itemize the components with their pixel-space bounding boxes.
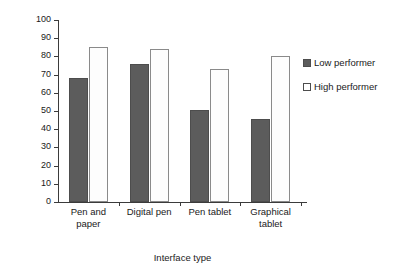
y-tick-70: 70	[54, 75, 58, 76]
y-tick-30: 30	[54, 147, 58, 148]
y-axis-line	[58, 20, 59, 202]
y-tick-label-40: 40	[29, 123, 51, 134]
bar-high-graphical-tablet	[271, 56, 290, 202]
x-category-label-line: Graphical	[240, 206, 301, 218]
bar-high-pen-tablet	[210, 69, 229, 202]
x-category-label-line: Pen tablet	[180, 206, 241, 218]
legend: Low performer High performer	[303, 57, 411, 105]
x-axis-line	[58, 202, 307, 203]
bar-low-graphical-tablet	[251, 119, 270, 202]
bar-chart: Percent correct inferences 0102030405060…	[0, 0, 412, 278]
bar-low-pen-and-paper	[69, 78, 88, 202]
bar-high-digital-pen	[150, 49, 169, 202]
legend-label-low: Low performer	[314, 57, 375, 68]
y-tick-label-30: 30	[29, 141, 51, 152]
y-tick-20: 20	[54, 166, 58, 167]
x-group-tick-4	[301, 202, 302, 206]
y-tick-label-50: 50	[29, 105, 51, 116]
x-category-label-graphical-tablet: Graphicaltablet	[240, 206, 301, 229]
x-category-label-line: paper	[58, 218, 119, 230]
y-tick-label-80: 80	[29, 50, 51, 61]
bar-low-pen-tablet	[190, 110, 209, 202]
y-tick-60: 60	[54, 93, 58, 94]
legend-item-low-performer: Low performer	[303, 57, 411, 68]
legend-swatch-icon-low	[303, 59, 311, 67]
y-tick-label-90: 90	[29, 32, 51, 43]
x-category-label-pen-and-paper: Pen andpaper	[58, 206, 119, 229]
legend-swatch-icon-high	[303, 83, 311, 91]
x-axis-title: Interface type	[58, 252, 307, 263]
y-tick-0: 0	[54, 202, 58, 203]
y-tick-100: 100	[54, 20, 58, 21]
y-tick-90: 90	[54, 38, 58, 39]
x-category-label-line: Pen and	[58, 206, 119, 218]
x-category-label-line: tablet	[240, 218, 301, 230]
y-tick-40: 40	[54, 129, 58, 130]
y-tick-50: 50	[54, 111, 58, 112]
y-tick-label-100: 100	[29, 14, 51, 25]
y-tick-label-60: 60	[29, 87, 51, 98]
bar-low-digital-pen	[130, 64, 149, 202]
x-category-label-digital-pen: Digital pen	[119, 206, 180, 218]
x-category-label-pen-tablet: Pen tablet	[180, 206, 241, 218]
y-tick-label-70: 70	[29, 69, 51, 80]
x-category-label-line: Digital pen	[119, 206, 180, 218]
legend-item-high-performer: High performer	[303, 81, 411, 92]
y-tick-10: 10	[54, 184, 58, 185]
y-tick-label-0: 0	[29, 196, 51, 207]
legend-label-high: High performer	[314, 81, 377, 92]
bar-high-pen-and-paper	[89, 47, 108, 202]
y-tick-label-20: 20	[29, 160, 51, 171]
y-tick-label-10: 10	[29, 178, 51, 189]
plot-area: 0102030405060708090100 Pen andpaperDigit…	[58, 20, 301, 202]
y-tick-80: 80	[54, 56, 58, 57]
